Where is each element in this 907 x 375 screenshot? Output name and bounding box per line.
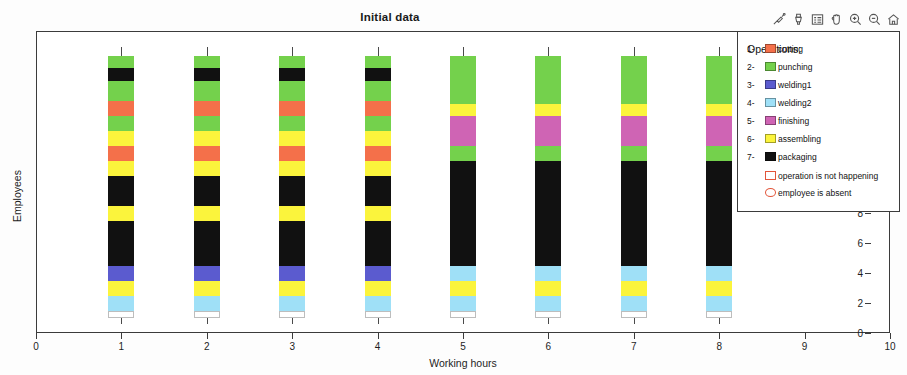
bar-segment-packaging[interactable] <box>365 68 391 82</box>
bar-segment-finishing[interactable] <box>621 116 647 146</box>
bar-segment-welding2[interactable] <box>279 296 305 311</box>
bar-segment-punching[interactable] <box>535 146 561 161</box>
stacked-bar-column[interactable] <box>621 0 647 375</box>
bar-segment-packaging[interactable] <box>194 221 220 266</box>
bar-segment-punching[interactable] <box>194 116 220 131</box>
bar-segment-assembling[interactable] <box>365 131 391 146</box>
stacked-bar-column[interactable] <box>535 0 561 375</box>
bar-segment-packaging[interactable] <box>279 176 305 206</box>
bar-segment-welding2[interactable] <box>621 266 647 281</box>
legend-item[interactable]: 1-cutting <box>747 42 803 55</box>
bar-segment-punching[interactable] <box>450 56 476 104</box>
bar-segment-welding1[interactable] <box>194 266 220 281</box>
bar-segment-not_happening[interactable] <box>535 311 561 319</box>
bar-segment-punching[interactable] <box>108 116 134 131</box>
bar-segment-finishing[interactable] <box>535 116 561 146</box>
bar-segment-packaging[interactable] <box>535 161 561 266</box>
bar-segment-cutting[interactable] <box>365 146 391 161</box>
bar-segment-assembling[interactable] <box>279 161 305 176</box>
bar-segment-not_happening[interactable] <box>108 311 134 319</box>
bar-segment-assembling[interactable] <box>365 281 391 296</box>
bar-segment-not_happening[interactable] <box>279 311 305 319</box>
bar-segment-assembling[interactable] <box>194 206 220 221</box>
legend-item[interactable]: 6-assembling <box>747 132 821 145</box>
bar-segment-packaging[interactable] <box>621 161 647 266</box>
bar-segment-punching[interactable] <box>279 56 305 68</box>
bar-segment-punching[interactable] <box>365 116 391 131</box>
stacked-bar-column[interactable] <box>108 0 134 375</box>
bar-segment-not_happening[interactable] <box>621 311 647 319</box>
bar-segment-assembling[interactable] <box>365 206 391 221</box>
bar-segment-welding2[interactable] <box>194 296 220 311</box>
bar-segment-welding2[interactable] <box>706 296 732 311</box>
bar-segment-assembling[interactable] <box>194 161 220 176</box>
bar-segment-cutting[interactable] <box>279 101 305 116</box>
bar-segment-packaging[interactable] <box>108 221 134 266</box>
bar-segment-packaging[interactable] <box>365 221 391 266</box>
bar-segment-assembling[interactable] <box>279 206 305 221</box>
bar-segment-assembling[interactable] <box>450 104 476 116</box>
bar-segment-packaging[interactable] <box>194 68 220 82</box>
bar-segment-assembling[interactable] <box>108 206 134 221</box>
bar-segment-finishing[interactable] <box>706 116 732 146</box>
bar-segment-welding2[interactable] <box>450 296 476 311</box>
bar-segment-punching[interactable] <box>365 56 391 68</box>
bar-segment-welding2[interactable] <box>450 266 476 281</box>
bar-segment-assembling[interactable] <box>535 281 561 296</box>
legend-item[interactable]: 7-packaging <box>747 150 817 163</box>
bar-segment-packaging[interactable] <box>279 221 305 266</box>
zoom-out-icon[interactable] <box>866 11 882 27</box>
bar-segment-packaging[interactable] <box>450 161 476 266</box>
bar-segment-assembling[interactable] <box>108 161 134 176</box>
bar-segment-welding1[interactable] <box>108 266 134 281</box>
bar-segment-welding1[interactable] <box>279 266 305 281</box>
bar-segment-punching[interactable] <box>194 56 220 68</box>
legend-item[interactable]: 2-punching <box>747 60 813 73</box>
stacked-bar-column[interactable] <box>365 0 391 375</box>
home-icon[interactable] <box>885 11 901 27</box>
bar-segment-cutting[interactable] <box>108 101 134 116</box>
bar-segment-assembling[interactable] <box>365 161 391 176</box>
bar-segment-assembling[interactable] <box>621 104 647 116</box>
bar-segment-packaging[interactable] <box>279 68 305 82</box>
bar-segment-punching[interactable] <box>108 56 134 68</box>
bar-segment-assembling[interactable] <box>706 281 732 296</box>
legend-item[interactable]: employee is absent <box>747 186 851 199</box>
bar-segment-cutting[interactable] <box>365 101 391 116</box>
bar-segment-welding1[interactable] <box>365 266 391 281</box>
bar-segment-punching[interactable] <box>450 146 476 161</box>
bar-segment-punching[interactable] <box>279 116 305 131</box>
bar-segment-welding2[interactable] <box>108 296 134 311</box>
bar-segment-cutting[interactable] <box>194 146 220 161</box>
legend-item[interactable]: 4-welding2 <box>747 96 812 109</box>
bar-segment-not_happening[interactable] <box>706 311 732 319</box>
bar-segment-welding2[interactable] <box>706 266 732 281</box>
bar-segment-packaging[interactable] <box>108 68 134 82</box>
bar-segment-packaging[interactable] <box>706 161 732 266</box>
legend-item[interactable]: operation is not happening <box>747 169 878 182</box>
bar-segment-assembling[interactable] <box>535 104 561 116</box>
insert-legend-icon[interactable] <box>809 11 825 27</box>
bar-segment-punching[interactable] <box>706 56 732 104</box>
bar-segment-assembling[interactable] <box>279 281 305 296</box>
bar-segment-welding2[interactable] <box>365 296 391 311</box>
bar-segment-packaging[interactable] <box>194 176 220 206</box>
stacked-bar-column[interactable] <box>450 0 476 375</box>
bar-segment-punching[interactable] <box>535 56 561 104</box>
bar-segment-assembling[interactable] <box>194 131 220 146</box>
legend-item[interactable]: 3-welding1 <box>747 78 812 91</box>
bar-segment-assembling[interactable] <box>621 281 647 296</box>
bar-segment-assembling[interactable] <box>706 104 732 116</box>
bar-segment-cutting[interactable] <box>108 146 134 161</box>
bar-segment-punching[interactable] <box>621 56 647 104</box>
bar-segment-finishing[interactable] <box>450 116 476 146</box>
bar-segment-punching[interactable] <box>365 81 391 101</box>
bar-segment-punching[interactable] <box>621 146 647 161</box>
bar-segment-assembling[interactable] <box>279 131 305 146</box>
bar-segment-punching[interactable] <box>194 81 220 101</box>
bar-segment-packaging[interactable] <box>365 176 391 206</box>
bar-segment-welding2[interactable] <box>535 266 561 281</box>
bar-segment-cutting[interactable] <box>194 101 220 116</box>
bar-segment-punching[interactable] <box>108 81 134 101</box>
bar-segment-assembling[interactable] <box>108 131 134 146</box>
